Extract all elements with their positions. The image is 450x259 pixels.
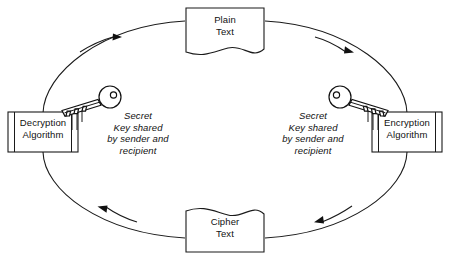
secret-key-note-right: Secret Key shared by sender and recipien… [263, 110, 363, 156]
arc-cipher-to-decryption [43, 152, 185, 238]
arrow-encryption-to-cipher-text [314, 206, 352, 224]
decryption-algorithm-label: Decryption Algorithm [8, 117, 78, 140]
arc-encryption-to-cipher [265, 152, 407, 238]
encryption-algorithm-label: Encryption Algorithm [372, 117, 442, 140]
arrow-plain-text-to-encryption [315, 37, 354, 54]
plain-text-label: Plain Text [185, 14, 265, 37]
secret-key-note-left: Secret Key shared by sender and recipien… [88, 110, 188, 156]
cipher-text-label: Cipher Text [185, 216, 265, 239]
encryption-cycle-diagram: Plain Text Cipher Text Decryption Algori… [0, 0, 450, 259]
